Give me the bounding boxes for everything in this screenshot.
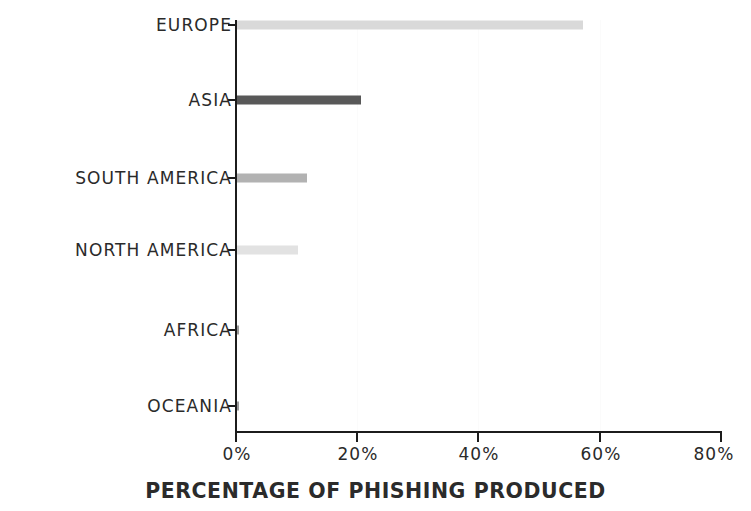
y-axis-label-north-america: NORTH AMERICA [75,242,232,259]
bar-oceania [237,402,239,411]
x-axis-tick-0 [235,433,237,442]
bar-africa [237,326,239,335]
phishing-by-continent-bar-chart: EUROPE ASIA SOUTH AMERICA NORTH AMERICA … [0,0,751,511]
y-axis-label-africa: AFRICA [164,322,232,339]
x-axis-tick-60 [599,433,601,442]
x-axis-tick-label-20: 20% [313,446,403,463]
x-axis-tick-80 [720,433,722,442]
bar-south-america [237,174,307,183]
bar-europe [237,21,583,30]
x-axis-tick-label-0: 0% [192,446,282,463]
x-axis-title: PERCENTAGE OF PHISHING PRODUCED [26,478,724,503]
x-axis-tick-20 [356,433,358,442]
x-axis-tick-label-60: 60% [556,446,646,463]
gridline-hint-40 [478,20,479,431]
x-axis-tick-label-40: 40% [434,446,524,463]
y-axis-label-south-america: SOUTH AMERICA [75,170,232,187]
y-axis-label-europe: EUROPE [156,17,232,34]
y-axis-label-oceania: OCEANIA [147,398,232,415]
gridline-hint-20 [357,20,358,431]
gridline-hint-60 [600,20,601,431]
bar-north-america [237,246,298,255]
x-axis-tick-40 [477,433,479,442]
bar-asia [237,96,361,105]
y-axis-label-asia: ASIA [189,92,232,109]
y-axis-line [235,20,237,433]
x-axis-tick-label-80: 80% [669,446,751,463]
